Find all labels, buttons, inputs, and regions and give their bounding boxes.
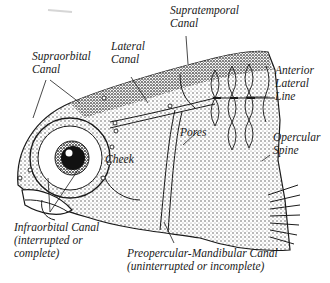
label-pores: Pores (180, 126, 206, 139)
label-supratemporal-canal: SupratemporalCanal (170, 4, 239, 30)
label-preopercular-mandibular-canal: Preopercular-Mandibular Canal(uninterrup… (127, 247, 278, 273)
label-lateral-canal: LateralCanal (111, 40, 145, 66)
pupil-icon (61, 146, 85, 170)
label-anterior-lateral-line: AnteriorLateralLine (275, 64, 314, 103)
label-opercular-spine: OpercularSpine (273, 131, 320, 157)
label-cheek: Cheek (105, 153, 134, 166)
label-supraorbital-canal: SupraorbitalCanal (32, 50, 91, 76)
fish-head-diagram: SupratemporalCanal LateralCanal Supraorb… (0, 0, 330, 283)
label-infraorbital-canal: Infraorbital Canal(interrupted orcomplet… (14, 221, 99, 260)
